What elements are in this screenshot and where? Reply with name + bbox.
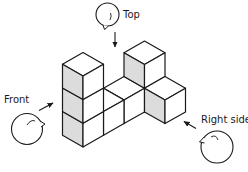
- front-label: Front: [4, 94, 29, 105]
- viewer-nose-icon: [200, 137, 205, 143]
- isometric-cube-diagram: Top Front Right side: [0, 0, 248, 172]
- viewer-eye-icon: [12, 114, 43, 145]
- viewer-eye-icon: [96, 3, 119, 26]
- front-arrow-icon: [39, 103, 53, 111]
- right-side-viewer: Right side: [184, 114, 248, 163]
- top-label: Top: [122, 9, 140, 20]
- right-side-label: Right side: [201, 114, 248, 125]
- cube-solid: [63, 41, 186, 147]
- right-side-arrow-icon: [184, 122, 196, 129]
- top-viewer: Top: [96, 3, 140, 47]
- front-viewer: Front: [4, 94, 53, 145]
- viewer-eye-icon: [201, 131, 233, 163]
